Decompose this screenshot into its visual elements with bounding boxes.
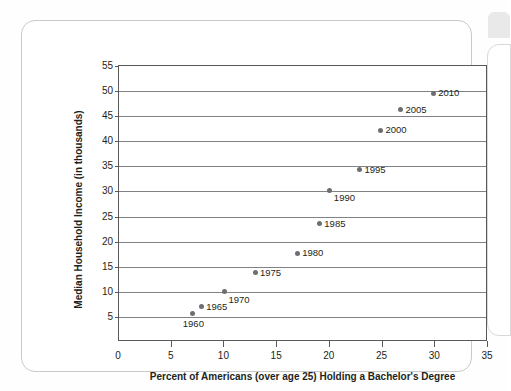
gridline <box>119 141 486 142</box>
x-axis-tick-label: 10 <box>218 350 229 361</box>
y-axis-tick-label: 35 <box>102 161 113 171</box>
gridline <box>119 317 486 318</box>
data-point <box>357 167 362 172</box>
data-point <box>317 221 322 226</box>
y-axis-tick-label: 10 <box>102 287 113 297</box>
data-point-label: 2005 <box>405 105 426 115</box>
gridline <box>119 116 486 117</box>
data-point-label: 1960 <box>183 319 204 329</box>
data-point <box>378 128 383 133</box>
x-axis-tick-mark <box>329 341 330 347</box>
y-axis-tick-label: 45 <box>102 111 113 121</box>
x-axis-tick-label: 0 <box>115 350 121 361</box>
x-axis-tick-mark <box>223 341 224 347</box>
data-point-label: 1980 <box>302 248 323 258</box>
data-point-label: 1985 <box>324 219 345 229</box>
side-panel <box>487 44 511 336</box>
x-axis-title: Percent of Americans (over age 25) Holdi… <box>118 370 487 383</box>
x-axis-tick-mark <box>382 341 383 347</box>
x-axis-tick-mark <box>276 341 277 347</box>
y-axis-tick-mark <box>115 141 119 142</box>
y-axis-tick-label: 50 <box>102 86 113 96</box>
gridline <box>119 267 486 268</box>
gridline <box>119 191 486 192</box>
y-axis-tick-label: 20 <box>102 237 113 247</box>
y-axis-tick-mark <box>115 116 119 117</box>
x-axis-tick-mark <box>434 341 435 347</box>
data-point <box>431 91 436 96</box>
gridline <box>119 242 486 243</box>
x-axis-tick-label: 30 <box>429 350 440 361</box>
x-axis-tick-label: 15 <box>271 350 282 361</box>
y-axis-tick-label: 5 <box>107 312 113 322</box>
figure-card: Median Household Income (in thousands) 5… <box>21 20 472 372</box>
x-axis-tick-mark <box>487 341 488 347</box>
data-point-label: 1970 <box>228 295 249 305</box>
data-point <box>398 107 403 112</box>
y-axis-tick-label: 40 <box>102 136 113 146</box>
data-point-label: 1995 <box>364 165 385 175</box>
data-point <box>295 251 300 256</box>
data-point <box>190 311 195 316</box>
x-axis-tick-label: 5 <box>168 350 174 361</box>
y-axis-tick-mark <box>115 292 119 293</box>
y-axis-tick-mark <box>115 242 119 243</box>
y-axis-tick-mark <box>115 191 119 192</box>
data-point-label: 1990 <box>334 193 355 203</box>
y-axis-tick-mark <box>115 91 119 92</box>
x-axis: 05101520253035 <box>118 341 487 371</box>
y-axis-tick-mark <box>115 66 119 67</box>
gridline <box>119 217 486 218</box>
plot-area: 510152025303540455055 196019651970197519… <box>118 65 487 341</box>
y-axis-tick-mark <box>115 217 119 218</box>
x-axis-tick-label: 25 <box>376 350 387 361</box>
gridline <box>119 166 486 167</box>
y-axis-title: Median Household Income (in thousands) <box>72 110 85 310</box>
y-axis-tick-label: 55 <box>102 61 113 71</box>
data-point-label: 2010 <box>438 88 459 98</box>
data-point-label: 1975 <box>260 268 281 278</box>
data-point <box>222 289 227 294</box>
x-axis-tick-mark <box>171 341 172 347</box>
x-axis-tick-label: 35 <box>481 350 492 361</box>
data-point-label: 1965 <box>206 302 227 312</box>
gridline <box>119 292 486 293</box>
y-axis-tick-label: 30 <box>102 186 113 196</box>
data-point <box>199 304 204 309</box>
data-point <box>253 270 258 275</box>
y-axis-tick-label: 25 <box>102 212 113 222</box>
side-panel-tab <box>488 12 510 38</box>
x-axis-tick-label: 20 <box>323 350 334 361</box>
y-axis-tick-mark <box>115 267 119 268</box>
data-point-label: 2000 <box>385 125 406 135</box>
y-axis-tick-label: 15 <box>102 262 113 272</box>
y-axis-tick-mark <box>115 317 119 318</box>
y-axis-tick-mark <box>115 166 119 167</box>
